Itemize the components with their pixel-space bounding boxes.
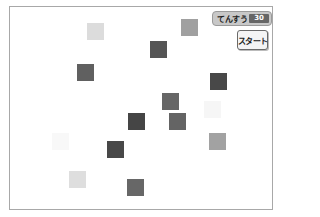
square-sprite[interactable]	[69, 171, 86, 188]
square-sprite[interactable]	[87, 23, 104, 40]
square-sprite[interactable]	[210, 73, 227, 90]
square-sprite[interactable]	[107, 141, 124, 158]
square-sprite[interactable]	[150, 41, 167, 58]
square-sprite[interactable]	[204, 101, 221, 118]
square-sprite[interactable]	[209, 133, 226, 150]
score-label: てんすう	[217, 13, 249, 24]
square-sprite[interactable]	[127, 179, 144, 196]
start-button[interactable]: スタート	[237, 30, 268, 50]
square-sprite[interactable]	[77, 64, 94, 81]
square-sprite[interactable]	[181, 19, 198, 36]
square-sprite[interactable]	[169, 113, 186, 130]
square-sprite[interactable]	[162, 93, 179, 110]
score-value: 30	[249, 14, 269, 23]
square-sprite[interactable]	[52, 133, 69, 150]
score-monitor: てんすう 30	[212, 11, 272, 26]
square-sprite[interactable]	[128, 113, 145, 130]
